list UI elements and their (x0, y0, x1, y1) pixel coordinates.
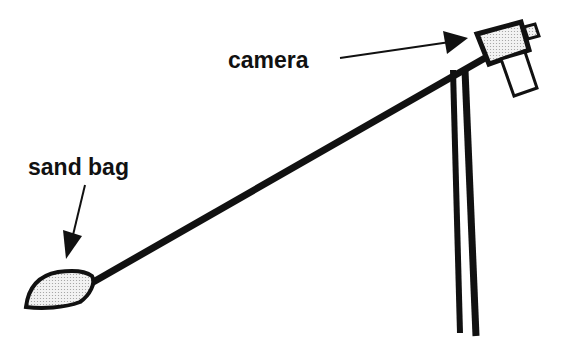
sand-bag-shape (26, 271, 93, 308)
tripod-legs (453, 70, 476, 336)
boom-pole (88, 58, 485, 285)
camera-boom-diagram: camera sand bag (0, 0, 564, 353)
sand-bag-arrow (63, 185, 85, 259)
camera-arrow (340, 31, 468, 58)
camera-label: camera (228, 47, 309, 73)
camera-icon (477, 22, 539, 96)
sand-bag-label: sand bag (28, 154, 129, 180)
